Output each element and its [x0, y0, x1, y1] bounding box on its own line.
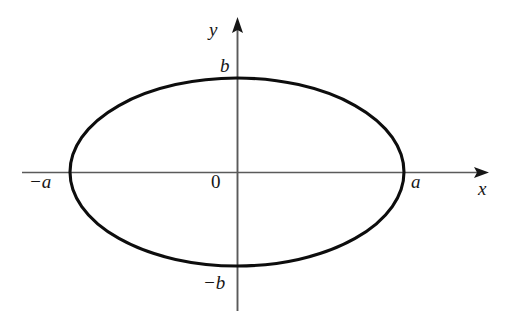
origin-label: 0: [211, 172, 221, 191]
y-axis-label: y: [209, 20, 217, 39]
top-vertex-label: b: [220, 56, 230, 75]
x-axis-label: x: [478, 179, 486, 198]
ellipse-figure: y b 0 −b −a a x: [0, 0, 513, 316]
right-vertex-label: a: [411, 172, 421, 191]
left-vertex-label: −a: [29, 172, 51, 191]
figure-canvas: [0, 0, 513, 316]
bottom-vertex-label: −b: [203, 273, 225, 292]
